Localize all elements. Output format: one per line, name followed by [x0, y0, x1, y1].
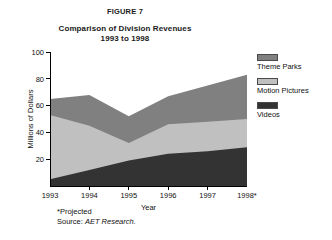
- figure-footnotes: *Projected Source: AET Research.: [57, 207, 257, 227]
- x-tick-label: 1994: [81, 191, 98, 200]
- y-tick-label: 20: [36, 155, 44, 164]
- legend-label: Motion Pictures: [257, 86, 332, 95]
- x-tick-label: 1996: [160, 191, 177, 200]
- footnote-source: Source: AET Research.: [57, 217, 257, 227]
- legend-entry: Theme Parks: [257, 54, 332, 71]
- legend-swatch-videos: [257, 102, 278, 109]
- figure-container: FIGURE 7 Comparison of Division Revenues…: [0, 0, 332, 240]
- legend-swatch-theme-parks: [257, 54, 278, 61]
- legend-entry: Videos: [257, 102, 332, 119]
- legend-label: Theme Parks: [257, 62, 332, 71]
- y-tick-label: 100: [31, 48, 44, 57]
- source-name-label: AET Research.: [85, 217, 136, 226]
- legend-entry: Motion Pictures: [257, 78, 332, 95]
- x-tick-label: 1995: [120, 191, 137, 200]
- chart-legend: Theme ParksMotion PicturesVideos: [257, 54, 332, 126]
- footnote-projected: *Projected: [57, 207, 257, 217]
- y-tick-label: 80: [36, 75, 44, 84]
- y-tick-label: 40: [36, 128, 44, 137]
- legend-label: Videos: [257, 110, 332, 119]
- y-tick-label: 60: [36, 101, 44, 110]
- y-axis-title: Millions of Dollars: [26, 89, 35, 148]
- source-prefix-label: Source:: [57, 217, 85, 226]
- x-tick-label: 1997: [199, 191, 216, 200]
- x-tick-label: 1998*: [237, 191, 257, 200]
- x-tick-label: 1993: [42, 191, 59, 200]
- legend-swatch-motion-pictures: [257, 78, 278, 85]
